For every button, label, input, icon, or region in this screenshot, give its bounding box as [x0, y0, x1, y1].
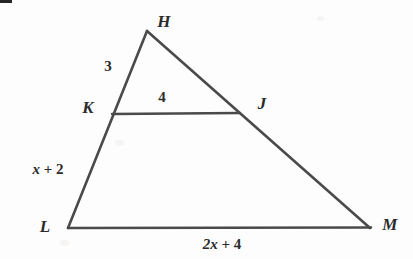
vertex-label-j: J: [258, 95, 267, 112]
vertex-label-m: M: [382, 216, 397, 233]
vertex-label-h: H: [157, 13, 170, 30]
vertex-label-l: L: [40, 218, 51, 235]
measure-label-hk: 3: [104, 59, 112, 74]
segment-KJ: [112, 113, 240, 114]
segment-HM: [147, 31, 370, 228]
measure-kl-variable: x: [32, 161, 40, 177]
measure-label-kj: 4: [158, 90, 166, 105]
geometry-figure: H K J L M 3 4 x + 2 2x + 4: [0, 0, 413, 259]
measure-kl-suffix: + 2: [40, 161, 64, 177]
triangle-drawing: [0, 0, 413, 259]
measure-lm-variable: 2x: [203, 236, 218, 252]
measure-lm-suffix: + 4: [218, 236, 242, 252]
vertex-label-k: K: [82, 99, 94, 116]
scan-artifact-corner: [0, 0, 12, 3]
measure-label-kl: x + 2: [32, 162, 63, 177]
segment-LM: [68, 228, 371, 229]
measure-label-lm: 2x + 4: [203, 237, 242, 252]
